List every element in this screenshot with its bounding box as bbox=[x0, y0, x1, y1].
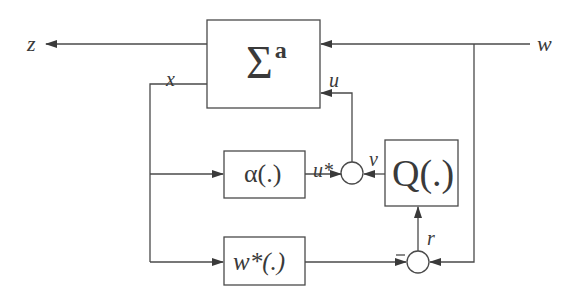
sum-junction-r bbox=[407, 251, 429, 273]
x-label: x bbox=[166, 69, 175, 89]
q-label: Q(.) bbox=[392, 154, 454, 192]
wstar-label: w*(.) bbox=[233, 249, 285, 274]
sum-junction-u bbox=[341, 162, 363, 184]
r-label: r bbox=[427, 228, 435, 248]
x-signal-line bbox=[150, 84, 207, 262]
u-line bbox=[321, 93, 352, 162]
u-label: u bbox=[329, 70, 339, 90]
block-diagram: Σa α(.) Q(.) w*(.) z w x u u* v r bbox=[0, 0, 582, 306]
plant-label: Σa bbox=[246, 40, 287, 86]
v-label: v bbox=[369, 149, 378, 169]
ustar-label: u* bbox=[313, 160, 333, 180]
sigma-symbol: Σ bbox=[246, 37, 273, 88]
diagram-wires bbox=[0, 0, 582, 306]
z-label: z bbox=[27, 33, 36, 55]
w-label: w bbox=[537, 33, 552, 55]
alpha-label: α(.) bbox=[244, 161, 281, 187]
plant-superscript: a bbox=[275, 37, 287, 63]
